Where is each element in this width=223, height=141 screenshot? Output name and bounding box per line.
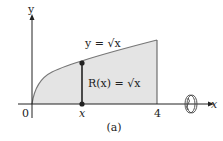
figure-caption: (a) (106, 121, 121, 134)
x-axis-label: x (211, 98, 218, 111)
axis-point (79, 101, 84, 106)
curve-point (79, 60, 84, 65)
origin-label: 0 (22, 107, 29, 120)
x-point-label: x (79, 107, 86, 120)
radius-label: R(x) = √x (88, 77, 141, 90)
volume-diagram: y x 0 x 4 y = √x R(x) = √x (a) (0, 0, 223, 141)
end-label: 4 (154, 107, 161, 120)
y-axis-label: y (27, 3, 35, 16)
curve-label: y = √x (84, 37, 121, 50)
